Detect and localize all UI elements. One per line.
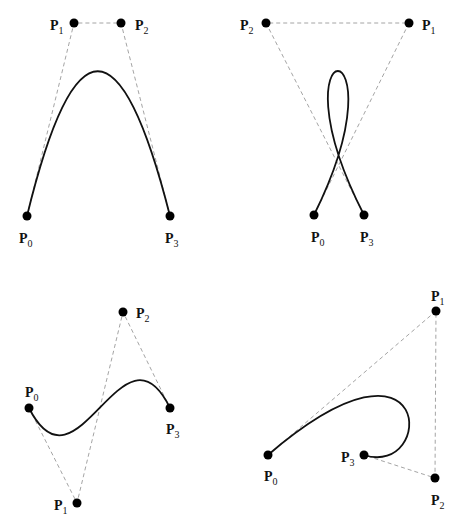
control-point-p1 bbox=[432, 307, 441, 316]
label-p0: P0 bbox=[19, 231, 33, 249]
bezier-curve bbox=[29, 380, 170, 435]
panel-hook: P0P1P2P3 bbox=[264, 289, 445, 511]
control-point-p2 bbox=[431, 474, 440, 483]
bezier-diagram: P0P1P2P3P0P1P2P3P0P1P2P3P0P1P2P3 bbox=[0, 0, 464, 530]
panel-loop: P0P1P2P3 bbox=[240, 18, 436, 248]
label-p3: P3 bbox=[360, 230, 374, 248]
control-point-p3 bbox=[360, 451, 369, 460]
control-point-p2 bbox=[117, 19, 126, 28]
label-p3: P3 bbox=[341, 450, 355, 468]
control-point-p0 bbox=[23, 212, 32, 221]
label-p2: P2 bbox=[135, 18, 149, 36]
panel-s-curve: P0P1P2P3 bbox=[25, 306, 180, 516]
control-point-p0 bbox=[310, 211, 319, 220]
label-p1: P1 bbox=[50, 18, 64, 36]
label-p0: P0 bbox=[311, 230, 325, 248]
control-point-p0 bbox=[264, 451, 273, 460]
bezier-curve bbox=[268, 396, 409, 457]
label-p1: P1 bbox=[431, 289, 445, 307]
label-p0: P0 bbox=[25, 385, 39, 403]
control-point-p1 bbox=[73, 499, 82, 508]
label-p3: P3 bbox=[166, 422, 180, 440]
control-point-p3 bbox=[166, 404, 175, 413]
bezier-curve bbox=[27, 71, 170, 216]
label-p2: P2 bbox=[136, 306, 150, 324]
control-polygon bbox=[266, 23, 409, 215]
control-polygon bbox=[27, 23, 170, 216]
control-point-p2 bbox=[119, 308, 128, 317]
control-polygon bbox=[268, 311, 436, 478]
control-point-p1 bbox=[70, 19, 79, 28]
label-p2: P2 bbox=[240, 18, 254, 36]
label-p0: P0 bbox=[264, 469, 278, 487]
control-point-p0 bbox=[25, 404, 34, 413]
label-p3: P3 bbox=[165, 231, 179, 249]
control-point-p3 bbox=[166, 212, 175, 221]
label-p2: P2 bbox=[431, 493, 445, 511]
control-point-p2 bbox=[262, 19, 271, 28]
panel-arch: P0P1P2P3 bbox=[19, 18, 179, 249]
label-p1: P1 bbox=[422, 18, 436, 36]
control-point-p1 bbox=[405, 19, 414, 28]
label-p1: P1 bbox=[54, 498, 68, 516]
bezier-curve bbox=[314, 71, 364, 215]
control-point-p3 bbox=[360, 211, 369, 220]
